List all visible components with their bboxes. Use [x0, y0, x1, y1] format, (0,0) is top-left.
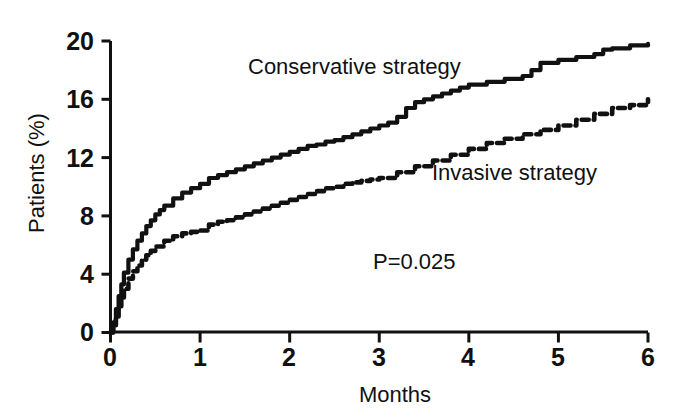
x-tick-label-4: 4	[448, 345, 488, 370]
x-tick-marks	[111, 333, 649, 343]
x-tick-label-3: 3	[359, 345, 399, 370]
annotation-conservative-strategy: Conservative strategy	[248, 54, 461, 80]
kaplan-meier-figure: 20 16 12 8 4 0 0 1 2 3 4 5 6 Patients (%…	[0, 0, 678, 417]
x-tick-label-5: 5	[538, 345, 578, 370]
y-axis-title: Patients (%)	[24, 78, 50, 268]
y-tick-label-20: 20	[34, 29, 94, 54]
annotation-invasive-strategy: Invasive strategy	[432, 160, 597, 186]
y-tick-label-0: 0	[34, 320, 94, 345]
x-tick-label-2: 2	[269, 345, 309, 370]
data-series	[111, 44, 649, 333]
annotation-p-value: P=0.025	[373, 249, 456, 275]
series-line-invasive	[111, 99, 649, 332]
x-tick-label-1: 1	[180, 345, 220, 370]
x-tick-label-0: 0	[90, 345, 130, 370]
series-line-conservative	[111, 44, 649, 333]
x-axis-title: Months	[330, 382, 460, 408]
x-tick-label-6: 6	[628, 345, 668, 370]
